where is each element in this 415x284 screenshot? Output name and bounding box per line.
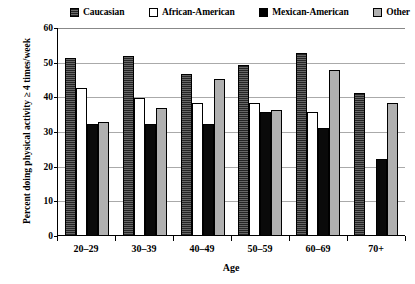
bar-african-3 (249, 103, 260, 235)
legend-swatch-icon-caucasian (70, 8, 79, 17)
x-tick-cell (289, 236, 347, 242)
bar-other-1 (156, 108, 167, 235)
legend-item-other: Other (373, 7, 410, 17)
bar-other-3 (271, 110, 282, 235)
x-axis-label-1: 30–39 (115, 243, 173, 259)
bar-african-4 (307, 112, 318, 235)
bar-group (289, 28, 347, 235)
x-tick-mark (347, 236, 348, 241)
bars-layer (58, 28, 405, 235)
y-tick-label: 40 (44, 92, 54, 102)
legend-item-caucasian: Caucasian (70, 7, 124, 17)
legend-label-caucasian: Caucasian (83, 7, 124, 17)
x-tick-mark (231, 236, 232, 241)
x-tick-cell (115, 236, 173, 242)
chart-legend: Caucasian African-American Mexican-Ameri… (70, 4, 414, 20)
x-tick-cell (173, 236, 231, 242)
bar-group (116, 28, 174, 235)
bar-mexican-2 (203, 124, 214, 235)
y-tick-label: 10 (44, 196, 54, 206)
x-tick-mark (115, 236, 116, 241)
bar-mexican-3 (260, 112, 271, 235)
y-tick-label: 20 (44, 162, 54, 172)
bar-mexican-0 (87, 124, 98, 235)
bar-african-2 (192, 103, 203, 235)
plot-area: 0102030405060 (57, 28, 405, 236)
x-tick-mark (57, 236, 58, 241)
legend-label-other: Other (386, 7, 410, 17)
bar-caucasian-1 (123, 56, 134, 235)
y-axis-title: Percent doing physical activity ≥ 4 time… (21, 31, 33, 231)
x-axis-label-3: 50–59 (231, 243, 289, 259)
x-tick-mark (405, 236, 406, 241)
legend-swatch-icon-other (373, 8, 382, 17)
legend-label-african-american: African-American (162, 7, 235, 17)
bar-other-0 (98, 122, 109, 235)
x-axis-ticks (57, 236, 405, 242)
x-axis-title: Age (57, 262, 405, 273)
x-tick-mark (289, 236, 290, 241)
x-tick-cell (231, 236, 289, 242)
x-axis-labels: 20–2930–3940–4950–5960–6970+ (57, 243, 405, 259)
bar-other-2 (214, 79, 225, 235)
bar-group (231, 28, 289, 235)
bar-african-1 (134, 98, 145, 235)
y-tick-label: 30 (44, 127, 54, 137)
legend-item-african-american: African-American (149, 7, 235, 17)
x-axis-label-2: 40–49 (173, 243, 231, 259)
bar-african-0 (76, 88, 87, 235)
bar-chart: Caucasian African-American Mexican-Ameri… (0, 0, 415, 284)
bar-group (174, 28, 232, 235)
bar-other-4 (329, 70, 340, 235)
legend-item-mexican-american: Mexican-American (259, 7, 348, 17)
legend-swatch-icon-african-american (149, 8, 158, 17)
x-axis-label-0: 20–29 (57, 243, 115, 259)
bar-other-5 (387, 103, 398, 235)
y-tick-label: 0 (48, 231, 53, 241)
bar-caucasian-0 (65, 58, 76, 235)
bar-group (347, 28, 405, 235)
bar-mexican-5 (376, 159, 387, 235)
x-axis-label-5: 70+ (347, 243, 405, 259)
x-tick-mark (173, 236, 174, 241)
legend-label-mexican-american: Mexican-American (272, 7, 348, 17)
y-tick-label: 60 (44, 23, 54, 33)
x-tick-cell (57, 236, 115, 242)
y-tick-label: 50 (44, 58, 54, 68)
bar-group (58, 28, 116, 235)
legend-swatch-icon-mexican-american (259, 8, 268, 17)
bar-mexican-4 (318, 128, 329, 235)
x-tick-cell (347, 236, 405, 242)
bar-caucasian-4 (296, 53, 307, 235)
x-axis-label-4: 60–69 (289, 243, 347, 259)
bar-caucasian-5 (354, 93, 365, 235)
bar-mexican-1 (145, 124, 156, 235)
bar-caucasian-3 (238, 65, 249, 235)
bar-caucasian-2 (181, 74, 192, 235)
